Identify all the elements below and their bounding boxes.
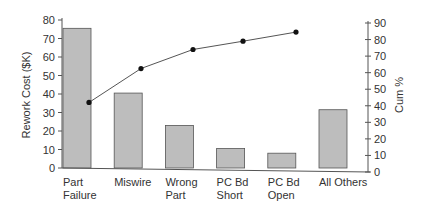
y2-tick-label: 0 — [374, 166, 380, 178]
x-tick-label: All Others — [319, 176, 368, 188]
x-axis-line — [62, 168, 370, 172]
y-tick-label: 20 — [43, 125, 55, 137]
cum-point-marker — [293, 30, 298, 35]
x-tick-label: Miswire — [114, 176, 151, 188]
y-tick-label: 60 — [43, 51, 55, 63]
chart-canvas: 010203040506070800102030405060708090 Par… — [0, 0, 430, 208]
bar — [217, 149, 245, 168]
bar-series — [63, 28, 347, 168]
y2-tick-label: 60 — [374, 67, 386, 79]
y2-axis-title: Cum % — [393, 77, 405, 113]
x-tick-label: PC BdShort — [217, 176, 249, 201]
cum-line — [89, 32, 296, 102]
y-tick-label: 80 — [43, 14, 55, 26]
y-tick-label: 10 — [43, 144, 55, 156]
x-tick-label: WrongPart — [165, 176, 197, 201]
y2-tick-label: 50 — [374, 83, 386, 95]
y-axis-title: Rework Cost ($K) — [20, 52, 32, 139]
y2-tick-label: 30 — [374, 116, 386, 128]
bar — [165, 125, 193, 168]
cum-point-marker — [138, 66, 143, 71]
x-tick-label: PC BdOpen — [268, 176, 300, 201]
bar — [268, 153, 296, 168]
y-tick-label: 50 — [43, 70, 55, 82]
x-tick-label: PartFailure — [63, 176, 97, 201]
bar — [63, 28, 91, 168]
y2-tick-label: 20 — [374, 133, 386, 145]
y-tick-label: 30 — [43, 107, 55, 119]
y2-tick-label: 70 — [374, 50, 386, 62]
bar — [319, 110, 347, 168]
y2-tick-label: 90 — [374, 17, 386, 29]
y2-tick-label: 80 — [374, 34, 386, 46]
y-tick-label: 0 — [49, 162, 55, 174]
cum-point-marker — [240, 39, 245, 44]
y-tick-label: 70 — [43, 33, 55, 45]
bar — [114, 93, 142, 168]
y-tick-label: 40 — [43, 88, 55, 100]
cum-point-marker — [86, 100, 91, 105]
y2-tick-label: 10 — [374, 149, 386, 161]
cum-point-marker — [190, 47, 195, 52]
pareto-chart: 010203040506070800102030405060708090 Par… — [0, 0, 430, 208]
y2-tick-label: 40 — [374, 100, 386, 112]
x-axis-labels: PartFailureMiswireWrongPartPC BdShortPC … — [63, 176, 368, 201]
